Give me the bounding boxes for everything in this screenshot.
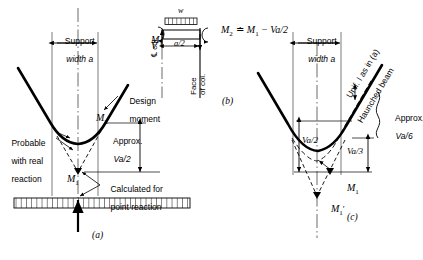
equation-lhs-sub: 2 <box>229 30 233 38</box>
load-w-label-b: w <box>178 7 183 15</box>
approx-va6-line1-c: Approx. <box>395 113 423 123</box>
panel-b-equation: M2≐M1−Va/2 <box>211 14 288 48</box>
point-reaction-right-dashed-a <box>78 131 101 172</box>
apex-left-dashed-c <box>292 140 317 196</box>
va3-label-c: Va/3 <box>347 147 363 156</box>
distributed-load-strip-b <box>165 18 197 25</box>
design-moment-line2-a: moment <box>129 114 160 124</box>
probable-line3-a: reaction <box>11 174 41 184</box>
design-moment-line1-a: Design <box>129 96 155 106</box>
va2-label-c: Va/2 <box>302 136 318 145</box>
probable-line1-a: Probable <box>11 138 45 148</box>
support-width-label-c: Support width a <box>293 28 341 73</box>
probable-reaction-label-a: Probable with real reaction <box>2 130 45 192</box>
support-width-line2-c: width a <box>308 54 335 64</box>
equation-rhs-term: Va/2 <box>270 24 288 35</box>
column-centerline-label-b: ℄ col. <box>151 37 159 57</box>
m1-subscript-c: 1 <box>355 188 359 196</box>
equation-rhs-letter: M <box>247 24 255 35</box>
m1-prime-apex-marker-c <box>313 192 321 199</box>
m1-subscript-b: 1 <box>159 40 163 48</box>
equation-minus: − <box>262 24 268 35</box>
half-width-label-b: a/2 <box>174 39 185 48</box>
m2-subscript-a: 2 <box>104 118 108 126</box>
m2-moment-arc-b <box>202 28 208 42</box>
approx-va2-label-a: Approx. Va/2 <box>104 128 142 173</box>
support-width-line2-a: width a <box>66 54 93 64</box>
calculated-line2-a: point reaction <box>110 202 161 212</box>
m1-prime-label-c: M1′ <box>321 193 345 227</box>
equation-rhs-sub: 1 <box>255 30 259 38</box>
panel-a-caption: (a) <box>92 231 103 241</box>
approx-va2-line2-a: Va/2 <box>113 154 130 164</box>
calculated-line1-a: Calculated for <box>110 184 162 194</box>
probable-line2-a: with real <box>11 156 43 166</box>
approx-va6-line2-c: Va/6 <box>395 131 412 141</box>
approx-va6-label-c: Approx. Va/6 <box>386 105 423 150</box>
support-width-line1-c: Support <box>307 36 337 46</box>
calculated-point-reaction-label-a: Calculated for point reaction <box>101 176 163 221</box>
m1-subscript-a: 1 <box>75 179 79 187</box>
calculated-leader-1-a <box>82 172 100 185</box>
panel-c-caption: (c) <box>347 213 358 223</box>
support-width-label-a: Support width a <box>52 28 98 73</box>
column-face-line2-b: of col. <box>199 74 207 95</box>
support-width-line1-a: Support <box>65 36 95 46</box>
equation-approx-equals: ≐ <box>236 24 244 35</box>
design-moment-label-a: Design moment <box>120 88 160 133</box>
m1-prime-mark-c: ′ <box>343 204 345 214</box>
panel-b-caption: (b) <box>222 97 233 107</box>
m1-label-a: M1 <box>57 163 79 197</box>
engineering-figure: Support width a M2 Design moment Approx.… <box>0 0 423 260</box>
m1-leader-c <box>322 163 331 170</box>
calculated-leader-2-a <box>80 185 100 196</box>
approx-va2-line1-a: Approx. <box>113 136 142 146</box>
